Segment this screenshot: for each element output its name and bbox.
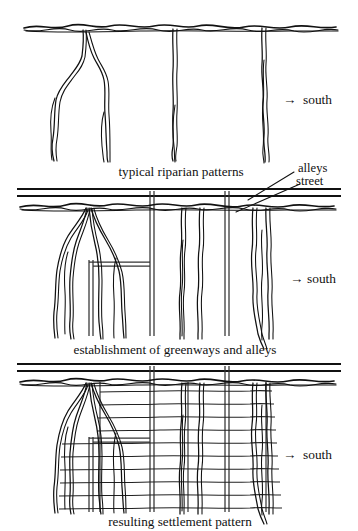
settlement-pattern-diagram: → south typical riparian patterns alleys…	[0, 0, 358, 531]
compass-label-3: south	[303, 447, 332, 462]
compass-glyph-3: →	[283, 447, 296, 462]
panel-3-caption: resulting settlement pattern	[108, 514, 252, 529]
panel-1-caption: typical riparian patterns	[118, 164, 243, 179]
compass-label-1: south	[303, 92, 332, 107]
compass-glyph-1: →	[283, 92, 296, 107]
callout-street-label: street	[296, 174, 324, 188]
compass-3: → south	[283, 447, 332, 462]
compass-glyph-2: →	[290, 271, 303, 286]
panel-2-caption: establishment of greenways and alleys	[74, 342, 277, 357]
compass-1: → south	[283, 92, 332, 107]
callout-alleys-label: alleys	[298, 161, 327, 175]
compass-label-2: south	[307, 271, 336, 286]
compass-2: → south	[290, 271, 336, 286]
figure-root: → south typical riparian patterns alleys…	[0, 0, 358, 531]
